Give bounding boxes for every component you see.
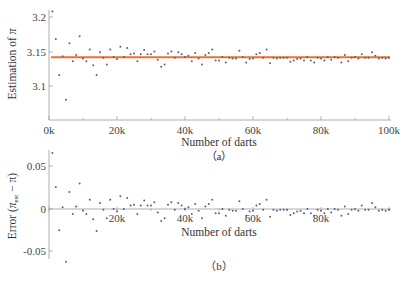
data-point bbox=[194, 203, 196, 205]
data-point bbox=[313, 62, 315, 64]
data-point bbox=[272, 209, 274, 211]
data-point bbox=[364, 209, 366, 211]
data-point bbox=[330, 59, 332, 61]
data-point bbox=[368, 57, 370, 59]
data-point bbox=[310, 59, 312, 61]
data-point bbox=[286, 57, 288, 59]
data-point bbox=[340, 62, 342, 64]
x-axis-title-b: Number of darts bbox=[181, 226, 257, 238]
data-point bbox=[82, 210, 84, 212]
data-point bbox=[72, 213, 74, 215]
data-point bbox=[208, 203, 210, 205]
data-point bbox=[208, 52, 210, 54]
data-point bbox=[235, 57, 237, 59]
x-tick-label: 60k bbox=[245, 124, 262, 136]
data-point bbox=[130, 205, 132, 207]
data-point bbox=[160, 220, 162, 222]
data-point bbox=[344, 205, 346, 207]
data-point bbox=[269, 216, 271, 218]
data-point bbox=[116, 58, 118, 60]
data-point bbox=[164, 217, 166, 219]
data-point bbox=[361, 205, 363, 207]
data-point bbox=[354, 56, 356, 58]
data-points-a bbox=[51, 10, 390, 100]
x-tick-label: 20k bbox=[109, 124, 126, 136]
y-axis-title-a: Estimation of π bbox=[6, 27, 18, 99]
data-point bbox=[337, 209, 339, 211]
data-point bbox=[293, 212, 295, 214]
data-point bbox=[252, 210, 254, 212]
data-point bbox=[347, 213, 349, 215]
data-point bbox=[249, 211, 251, 213]
data-point bbox=[184, 208, 186, 210]
x-tick-label: 60k bbox=[245, 212, 262, 224]
data-point bbox=[85, 213, 87, 215]
data-point bbox=[344, 54, 346, 56]
data-point bbox=[340, 215, 342, 217]
data-point bbox=[276, 57, 278, 59]
data-point bbox=[238, 50, 240, 52]
data-point bbox=[276, 210, 278, 212]
data-point bbox=[371, 51, 373, 53]
data-point bbox=[62, 206, 64, 208]
data-point bbox=[164, 64, 166, 66]
data-point bbox=[368, 209, 370, 211]
data-point bbox=[245, 62, 247, 64]
data-point bbox=[327, 208, 329, 210]
data-point bbox=[102, 57, 104, 59]
data-point bbox=[252, 57, 254, 59]
data-point bbox=[187, 55, 189, 57]
data-point bbox=[215, 59, 217, 61]
data-point bbox=[133, 53, 135, 55]
data-point bbox=[279, 57, 281, 59]
data-point bbox=[99, 51, 101, 53]
data-point bbox=[337, 57, 339, 59]
data-point bbox=[140, 205, 142, 207]
data-point bbox=[351, 209, 353, 211]
data-point bbox=[306, 208, 308, 210]
data-point bbox=[150, 205, 152, 207]
data-point bbox=[174, 57, 176, 59]
data-point bbox=[123, 208, 125, 210]
data-point bbox=[184, 56, 186, 58]
data-point bbox=[68, 42, 70, 44]
data-point bbox=[181, 205, 183, 207]
data-point bbox=[317, 57, 319, 59]
data-point bbox=[143, 200, 145, 202]
data-point bbox=[262, 209, 264, 211]
data-point bbox=[300, 57, 302, 59]
data-point bbox=[283, 57, 285, 59]
data-point bbox=[204, 54, 206, 56]
data-point bbox=[232, 57, 234, 59]
data-point bbox=[351, 57, 353, 59]
data-point bbox=[92, 218, 94, 220]
data-point bbox=[361, 53, 363, 55]
y-ticks-b bbox=[49, 166, 53, 251]
data-point bbox=[323, 59, 325, 61]
data-point bbox=[187, 206, 189, 208]
chart-b: 20k 40k 60k 80k 0.05 0 -0.05 Number of d… bbox=[6, 150, 391, 272]
data-point bbox=[238, 200, 240, 202]
data-point bbox=[235, 210, 237, 212]
data-point bbox=[109, 48, 111, 50]
data-point bbox=[262, 57, 264, 59]
data-point bbox=[177, 51, 179, 53]
data-point bbox=[147, 205, 149, 207]
x-tick-label: 0k bbox=[44, 124, 56, 136]
data-point bbox=[160, 66, 162, 68]
data-point bbox=[55, 38, 57, 40]
data-points-b bbox=[51, 152, 390, 263]
data-point bbox=[221, 208, 223, 210]
y-ticks-a bbox=[49, 17, 53, 86]
data-point bbox=[272, 57, 274, 59]
data-point bbox=[293, 59, 295, 61]
data-point bbox=[153, 201, 155, 203]
data-point bbox=[245, 215, 247, 217]
data-point bbox=[296, 211, 298, 213]
data-point bbox=[303, 59, 305, 61]
data-point bbox=[82, 57, 84, 59]
data-point bbox=[51, 10, 53, 12]
data-point bbox=[174, 209, 176, 211]
data-point bbox=[330, 211, 332, 213]
data-point bbox=[242, 208, 244, 210]
